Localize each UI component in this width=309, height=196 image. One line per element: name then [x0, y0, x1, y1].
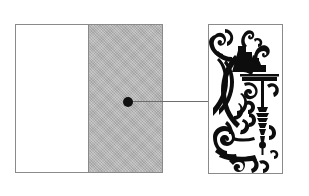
- enlarged-detail-panel: [208, 24, 283, 174]
- figure-root: [0, 0, 309, 196]
- callout-leader-line: [128, 101, 208, 102]
- ornament-engraving: [209, 25, 282, 173]
- callout-marker-dot: [123, 97, 133, 107]
